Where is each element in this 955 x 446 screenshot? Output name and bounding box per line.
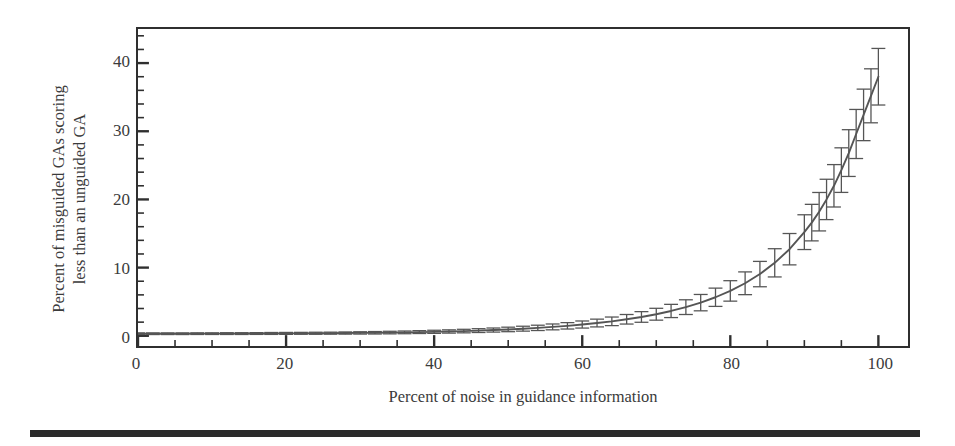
x-axis-label: Percent of noise in guidance information	[136, 387, 910, 407]
x-tick-label-100: 100	[850, 354, 910, 374]
x-tick-label-0: 0	[106, 354, 166, 374]
y-tick-label-40: 40	[90, 52, 130, 72]
y-tick-label-10: 10	[90, 259, 130, 279]
page-bottom-rule	[30, 430, 920, 437]
plot-area	[136, 27, 910, 348]
figure-container: Percent of misguided GAs scoring less th…	[0, 0, 955, 446]
y-axis-tick-labels: 010203040	[84, 27, 130, 348]
x-tick-label-60: 60	[553, 354, 613, 374]
x-tick-label-80: 80	[701, 354, 761, 374]
y-tick-label-0: 0	[90, 328, 130, 348]
y-tick-label-20: 20	[90, 190, 130, 210]
plot-svg	[138, 29, 908, 346]
y-tick-label-30: 30	[90, 121, 130, 141]
y-axis-label-line-1: Percent of misguided GAs scoring	[48, 34, 69, 364]
x-axis-tick-labels: 020406080100	[136, 354, 910, 380]
x-tick-label-20: 20	[255, 354, 315, 374]
x-tick-label-40: 40	[404, 354, 464, 374]
